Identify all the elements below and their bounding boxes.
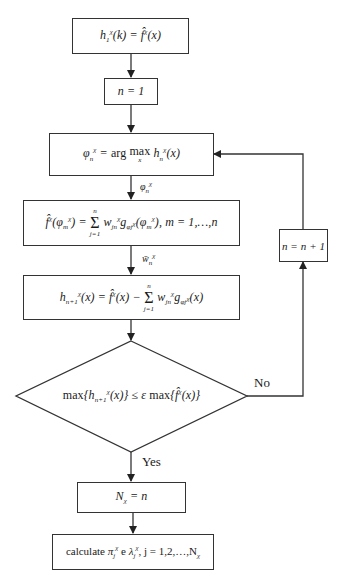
convergence-condition: max{hn+1χ(x)} ≤ ε max{f̂χ(x)} (16, 380, 247, 412)
calculate-box: calculate πjχ e λjχ, j = 1,2,…,Nχ (52, 534, 214, 570)
n-chi-box: Nχ = n (77, 482, 186, 513)
argmax-formula: φnχ = arg maxx hnχ(x) (83, 145, 180, 164)
increment-n-text: n = n + 1 (282, 240, 325, 252)
yes-branch-label: Yes (142, 454, 161, 470)
edge-label-w: w̄nχ (142, 252, 155, 267)
edge-label-phi: φnχ (140, 180, 152, 195)
residual-formula: hn+1χ(x) = f̂χ(x) − nΣj=1 wjnχgφjχ(x) (60, 283, 203, 313)
init-formula: h1χ(k) = f̂χ(x) (100, 28, 161, 44)
n-equals-one-box: n = 1 (104, 78, 158, 105)
calculate-text: calculate πjχ e λjχ, j = 1,2,…,Nχ (66, 544, 200, 560)
argmax-step-box: φnχ = arg maxx hnχ(x) (49, 133, 214, 176)
increment-n-box: n = n + 1 (279, 229, 328, 262)
init-step-box: h1χ(k) = f̂χ(x) (72, 18, 189, 54)
n-equals-one-text: n = 1 (118, 84, 145, 99)
no-branch-label: No (254, 375, 270, 391)
residual-update-box: hn+1χ(x) = f̂χ(x) − nΣj=1 wjnχgφjχ(x) (23, 275, 240, 320)
weight-solve-formula: f̂χ(φmχ) = nΣj=1 wjnχgφjχ(φmχ), m = 1,…,… (46, 208, 218, 238)
n-chi-text: Nχ = n (116, 489, 148, 505)
weight-solve-box: f̂χ(φmχ) = nΣj=1 wjnχgφjχ(φmχ), m = 1,…,… (23, 200, 240, 246)
